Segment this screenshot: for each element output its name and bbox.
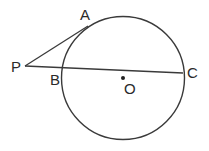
geometry-diagram: A P B C O bbox=[0, 0, 209, 151]
label-p: P bbox=[11, 58, 21, 75]
label-o: O bbox=[124, 80, 136, 97]
label-a: A bbox=[80, 6, 90, 23]
label-b: B bbox=[50, 71, 60, 88]
label-c: C bbox=[187, 64, 198, 81]
tangent-line-pa bbox=[25, 26, 88, 66]
secant-line-pc bbox=[25, 66, 183, 73]
